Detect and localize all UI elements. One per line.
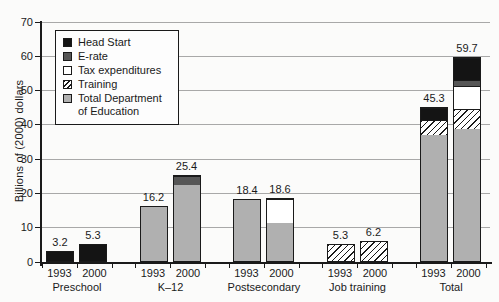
bar-job-training-2000 — [360, 241, 388, 262]
legend-label: Total Department of Education — [78, 92, 172, 118]
legend: Head Start E-rate Tax expenditures Train… — [55, 30, 179, 125]
y-tick-label: 70 — [7, 16, 33, 29]
bar-segment-education — [267, 223, 293, 261]
legend-label: E-rate — [78, 50, 108, 63]
bar-total-1993 — [420, 107, 448, 262]
training-swatch-icon — [63, 80, 72, 89]
bar-segment-education — [141, 207, 167, 261]
group-label: Postsecondary — [219, 281, 309, 293]
bar-value-label: 5.3 — [71, 229, 115, 241]
legend-item-training: Training — [63, 78, 172, 91]
y-tick-label: 20 — [7, 187, 33, 200]
tax-expenditures-swatch-icon — [63, 66, 72, 75]
bar-segment-education — [454, 129, 480, 261]
group-label: Preschool — [32, 281, 122, 293]
y-tick-label: 60 — [7, 50, 33, 63]
bar-value-label: 59.7 — [445, 42, 489, 54]
year-label: 2000 — [77, 267, 112, 279]
bar-value-label: 45.3 — [412, 92, 456, 104]
bar-segment-e-rate — [174, 176, 200, 185]
bar-job-training-1993 — [327, 244, 355, 262]
legend-item-e-rate: E-rate — [63, 50, 172, 63]
bar-postsecondary-2000 — [266, 198, 294, 262]
education-swatch-icon — [63, 94, 72, 103]
year-label: 2000 — [451, 267, 486, 279]
bar-segment-education — [174, 185, 200, 261]
bar-value-label: 18.6 — [258, 183, 302, 195]
y-axis-line — [40, 21, 42, 266]
bar-segment-training — [454, 109, 480, 130]
legend-label: Training — [78, 78, 117, 91]
bar-segment-tax-expenditures — [454, 86, 480, 108]
year-label: 1993 — [229, 267, 264, 279]
bar-segment-head-start — [80, 245, 106, 261]
year-label: 1993 — [416, 267, 451, 279]
bar-segment-education — [234, 200, 260, 261]
bar-segment-tax-expenditures — [267, 199, 293, 223]
legend-item-head-start: Head Start — [63, 36, 172, 49]
year-label: 1993 — [42, 267, 77, 279]
year-label: 2000 — [264, 267, 299, 279]
year-label: 1993 — [323, 267, 358, 279]
bar-value-label: 6.2 — [352, 226, 396, 238]
bar-k-12-1993 — [140, 206, 168, 262]
bar-preschool-1993 — [46, 251, 74, 262]
y-tick-label: 30 — [7, 153, 33, 166]
bar-segment-education — [421, 135, 447, 261]
group-label: K–12 — [126, 281, 216, 293]
bar-preschool-2000 — [79, 244, 107, 262]
bar-segment-training — [361, 242, 387, 261]
group-label: Total — [406, 281, 496, 293]
bar-value-label: 25.4 — [165, 160, 209, 172]
legend-item-tax-expenditures: Tax expenditures — [63, 64, 172, 77]
bar-value-label: 16.2 — [132, 191, 176, 203]
legend-label: Tax expenditures — [78, 64, 161, 77]
legend-label: Head Start — [78, 36, 131, 49]
head-start-swatch-icon — [63, 38, 72, 47]
x-axis-line — [40, 262, 492, 264]
legend-item-education: Total Department of Education — [63, 92, 172, 118]
bar-postsecondary-1993 — [233, 199, 261, 262]
y-tick-label: 10 — [7, 221, 33, 234]
year-label: 2000 — [171, 267, 206, 279]
y-tick-label: 40 — [7, 118, 33, 131]
e-rate-swatch-icon — [63, 52, 72, 61]
y-tick-label: 0 — [7, 256, 33, 269]
bar-segment-head-start — [454, 58, 480, 79]
year-label: 2000 — [358, 267, 393, 279]
bar-total-2000 — [453, 57, 481, 262]
bar-segment-head-start — [421, 108, 447, 120]
bar-segment-training — [421, 120, 447, 135]
group-label: Job training — [313, 281, 403, 293]
y-tick-label: 50 — [7, 84, 33, 97]
bar-segment-training — [328, 245, 354, 261]
bar-chart-figure: Billions of (2000) dollars 0102030405060… — [0, 0, 499, 302]
gridline — [42, 22, 490, 23]
year-label: 1993 — [136, 267, 171, 279]
bar-segment-head-start — [47, 252, 73, 261]
bar-k-12-2000 — [173, 175, 201, 262]
